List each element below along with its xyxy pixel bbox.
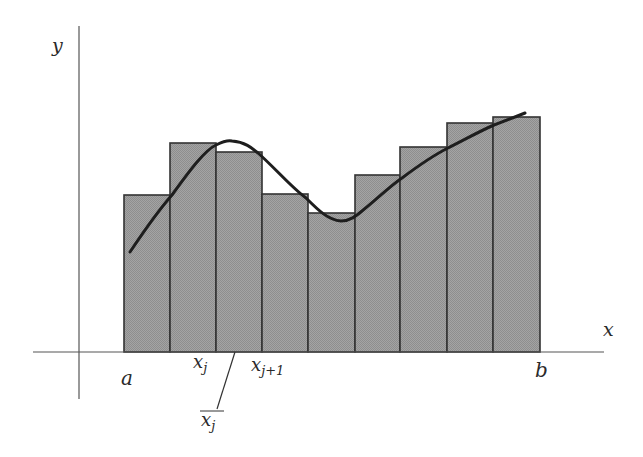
rectangle-8	[447, 123, 493, 352]
label-a: a	[121, 366, 133, 390]
rectangle-6	[355, 175, 400, 352]
label-x-j: xj	[193, 351, 207, 375]
rectangle-7	[400, 147, 447, 352]
rectangle-9	[493, 117, 540, 352]
label-x-j-bar: xj	[201, 409, 215, 433]
rectangle-5	[308, 213, 355, 352]
riemann-sum-diagram: y x a b xj xj+1 xj	[0, 0, 643, 457]
rectangle-4	[262, 194, 308, 352]
rectangle-3	[216, 152, 262, 352]
label-x-j-plus-1: xj+1	[251, 354, 284, 378]
rectangle-2	[170, 143, 216, 352]
y-axis-label: y	[51, 34, 63, 56]
label-b: b	[535, 358, 548, 382]
rectangle-1	[124, 195, 170, 352]
x-axis-label: x	[603, 318, 614, 340]
rectangles-group	[124, 117, 540, 352]
sample-point-pointer-line	[217, 352, 235, 409]
